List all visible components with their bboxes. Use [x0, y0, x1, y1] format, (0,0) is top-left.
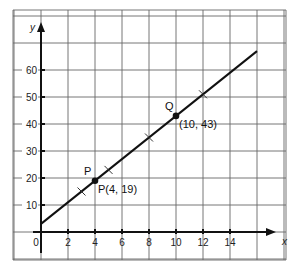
x-tick-label: 8 — [146, 237, 152, 248]
x-tick-label: 10 — [170, 237, 182, 248]
x-tick-label: 6 — [119, 237, 125, 248]
y-axis-arrow-icon — [37, 22, 45, 32]
x-tick-label: 4 — [92, 237, 98, 248]
point-Q-label: Q — [165, 100, 174, 112]
point-P-coords: P(4, 19) — [98, 183, 137, 195]
axis-ticks: 02468101214102030405060 — [22, 64, 236, 248]
x-tick-label: 0 — [33, 237, 39, 248]
y-tick-label: 60 — [26, 65, 38, 76]
y-tick-label: 20 — [26, 173, 38, 184]
x-tick-label: 12 — [197, 237, 209, 248]
x-axis-label: x — [281, 236, 288, 247]
point-Q-coords: (10, 43) — [179, 118, 217, 130]
y-tick-label: 40 — [26, 119, 38, 130]
x-tick-label: 2 — [65, 237, 71, 248]
y-axis-label: y — [29, 22, 36, 33]
point-P-label: P — [84, 165, 91, 177]
coordinate-plane-chart: xy 02468101214102030405060 PP(4, 19)Q(10… — [0, 0, 308, 274]
y-tick-label: 50 — [26, 92, 38, 103]
grid-lines — [13, 10, 286, 260]
x-axis-arrow-icon — [266, 228, 276, 236]
y-tick-label: 30 — [26, 146, 38, 157]
y-tick-label: 10 — [26, 200, 38, 211]
x-tick-label: 14 — [224, 237, 236, 248]
